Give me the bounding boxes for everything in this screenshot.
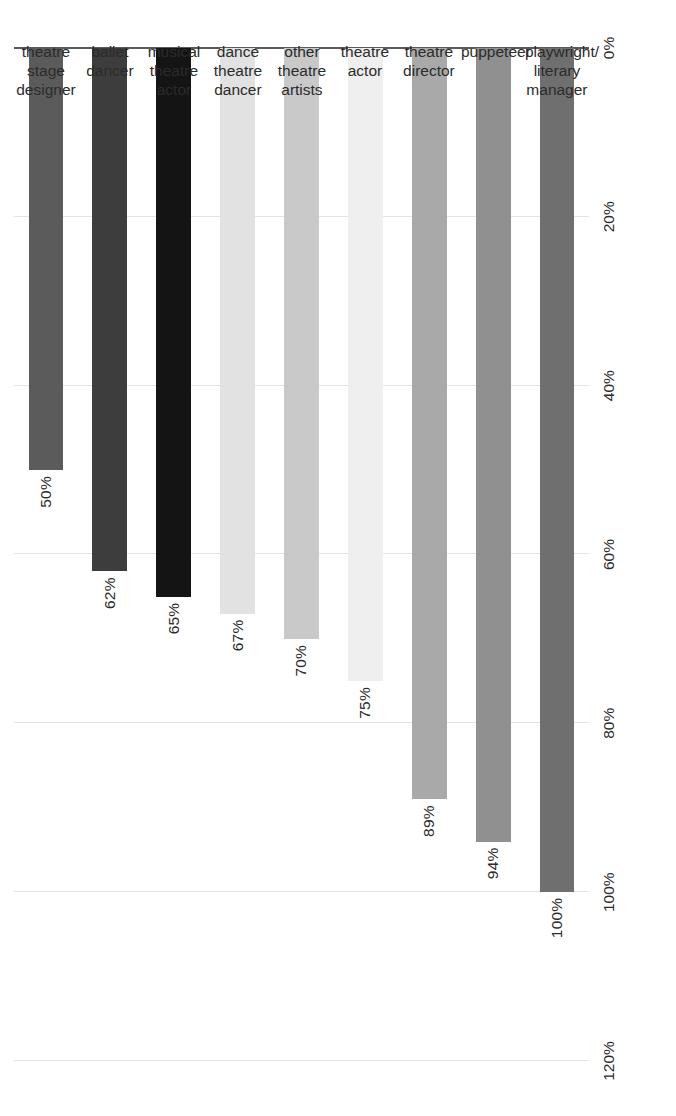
bar-row: 62% bbox=[92, 48, 127, 1061]
bar-row: 67% bbox=[220, 48, 255, 1061]
value-tick-60%: 60% bbox=[600, 539, 618, 570]
bar-value-label: 70% bbox=[292, 645, 310, 685]
bar-row: 100% bbox=[540, 48, 575, 1061]
value-tick-40%: 40% bbox=[600, 370, 618, 401]
bar-row: 75% bbox=[348, 48, 383, 1061]
chart-canvas: 50%62%65%67%70%75%89%94%100% theatre sta… bbox=[0, 0, 676, 1116]
bar-4[interactable] bbox=[220, 48, 255, 614]
bar-row: 94% bbox=[476, 48, 511, 1061]
value-tick-0%: 0% bbox=[600, 37, 618, 59]
value-tick-120%: 120% bbox=[600, 1041, 618, 1081]
bar-row: 65% bbox=[156, 48, 191, 1061]
bar-2[interactable] bbox=[92, 48, 127, 571]
plot-area: 50%62%65%67%70%75%89%94%100% bbox=[14, 48, 589, 1061]
bar-6[interactable] bbox=[348, 48, 383, 681]
bar-5[interactable] bbox=[284, 48, 319, 639]
bar-value-label: 75% bbox=[356, 687, 374, 727]
bar-1[interactable] bbox=[29, 48, 64, 470]
value-tick-100%: 100% bbox=[600, 872, 618, 912]
bar-value-label: 67% bbox=[229, 620, 247, 660]
bar-value-label: 89% bbox=[420, 805, 438, 845]
value-tick-20%: 20% bbox=[600, 201, 618, 232]
bar-series: 50%62%65%67%70%75%89%94%100% bbox=[14, 48, 589, 1061]
bar-row: 70% bbox=[284, 48, 319, 1061]
bar-value-label: 94% bbox=[484, 848, 502, 888]
bar-row: 89% bbox=[412, 48, 447, 1061]
bar-value-label: 50% bbox=[37, 476, 55, 516]
value-tick-80%: 80% bbox=[600, 708, 618, 739]
bar-8[interactable] bbox=[476, 48, 511, 842]
bar-9[interactable] bbox=[540, 48, 575, 892]
bar-value-label: 100% bbox=[548, 898, 566, 938]
bar-value-label: 65% bbox=[165, 603, 183, 643]
bar-value-label: 62% bbox=[101, 577, 119, 617]
bar-row: 50% bbox=[29, 48, 64, 1061]
bar-7[interactable] bbox=[412, 48, 447, 799]
bar-3[interactable] bbox=[156, 48, 191, 597]
